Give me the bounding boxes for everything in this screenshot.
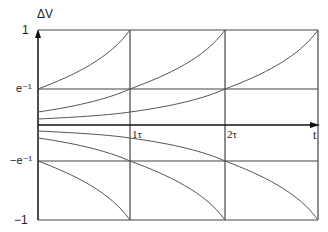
curve-neg-3: [38, 131, 318, 220]
y-tick-neg-1: −1: [14, 214, 28, 226]
x-tick-1tau: 1τ: [132, 129, 142, 140]
curve-neg-2: [38, 138, 225, 220]
x-axis-label: t: [313, 129, 316, 141]
y-tick-neg-e-inv: −e⁻¹: [10, 155, 32, 166]
diagram-canvas: [0, 0, 328, 232]
y-tick-e-inv: e⁻¹: [16, 83, 32, 94]
curve-neg-1: [38, 161, 130, 220]
x-tick-2tau: 2τ: [227, 129, 237, 140]
curve-pos-2: [38, 30, 225, 112]
curve-pos-3: [38, 30, 318, 119]
y-tick-1: 1: [22, 24, 29, 36]
y-axis-label: ΔV: [37, 8, 53, 20]
curve-pos-1: [38, 30, 130, 89]
